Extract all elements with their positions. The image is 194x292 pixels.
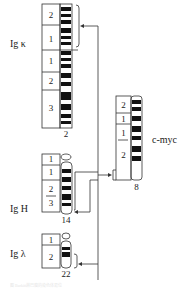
chr8-bands <box>132 100 141 161</box>
chr8-arm-label: 1 <box>116 128 131 138</box>
chr22-arm-label: 1 <box>42 235 60 245</box>
chr8-arm-label: 2 <box>116 150 131 160</box>
label-c-myc: c-myc <box>152 134 177 145</box>
chr8-arm-label: 1 <box>116 114 131 124</box>
chr22-bands <box>62 247 70 257</box>
chr2-arm-label: 1 <box>42 56 60 66</box>
chr14-arm-label: 3 <box>42 198 60 208</box>
chr14-arm-label: 1 <box>42 154 60 164</box>
chr8-arm-label: 2 <box>116 100 131 110</box>
chr2-number: 2 <box>60 129 72 139</box>
chr22-arm-label: 2 <box>42 252 60 262</box>
chr14-bands <box>62 169 71 206</box>
label-ig-kappa: Ig κ <box>10 38 26 49</box>
chr2-bands <box>61 7 71 124</box>
chr2-arm-label: 2 <box>42 10 60 20</box>
chr14-number: 14 <box>58 215 74 225</box>
translocation-arrows <box>74 26 110 280</box>
label-ig-lambda: Ig λ <box>10 248 26 259</box>
chr2-arm-label: 3 <box>42 103 60 113</box>
chr8-number: 8 <box>131 182 142 192</box>
chr14-arm-label: 1 <box>42 167 60 177</box>
figure-caption: 图 Burkitt淋巴瘤的染色体易位 <box>10 282 180 288</box>
chr2-arm-label: 2 <box>42 76 60 86</box>
diagram-graphics <box>0 0 194 292</box>
chr14-arm-label: 2 <box>42 184 60 194</box>
label-ig-h: Ig H <box>10 203 28 214</box>
chr22-number: 22 <box>58 269 74 279</box>
chr2-arm-label: 1 <box>42 34 60 44</box>
